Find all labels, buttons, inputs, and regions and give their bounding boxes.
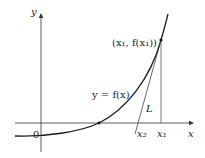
x1-label: x₁ [157, 128, 167, 139]
tangent-label: L [145, 103, 153, 114]
root-point [98, 122, 101, 125]
curve-label: y = f(x) [91, 89, 130, 100]
point-x1-fx1 [159, 38, 162, 41]
newtons-method-diagram: y x 0 (x₁, f(x₁)) y = f(x) L x₂ x₁ [0, 0, 205, 158]
y-axis-label: y [30, 6, 37, 17]
origin-label: 0 [33, 129, 39, 140]
x2-label: x₂ [137, 128, 147, 139]
curve-f [15, 14, 168, 136]
point-label: (x₁, f(x₁)) [112, 37, 157, 48]
x-axis-label: x [188, 128, 194, 139]
